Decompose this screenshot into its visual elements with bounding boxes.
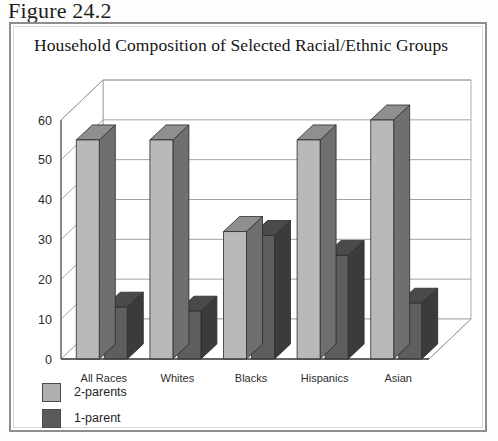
- bar-asian-2-parents: [371, 105, 410, 359]
- y-axis-tick-label: 20: [38, 273, 52, 287]
- y-axis-tick-label: 60: [38, 114, 52, 128]
- figure-number-label: Figure 24.2: [8, 0, 112, 24]
- bar-hispanics-2-parents: [297, 125, 336, 359]
- figure-container: Figure 24.2 Household Composition of Sel…: [0, 0, 498, 441]
- y-axis-tick-label: 10: [38, 313, 52, 327]
- y-axis-tick-label: 50: [38, 153, 52, 167]
- x-axis-category-label: Hispanics: [301, 372, 349, 384]
- chart-frame: Household Composition of Selected Racial…: [9, 22, 487, 432]
- legend-swatch-2-parents: [42, 383, 61, 402]
- bar-whites-2-parents: [150, 125, 189, 359]
- legend-item-1-parent: 1-parent: [42, 405, 262, 431]
- bar-blacks-2-parents: [224, 217, 263, 359]
- legend-swatch-1-parent: [42, 409, 61, 428]
- legend-label-1-parent: 1-parent: [74, 411, 121, 425]
- y-axis-tick-label: 0: [45, 353, 52, 367]
- chart-title: Household Composition of Selected Racial…: [34, 35, 448, 56]
- bar-chart-plot: 0102030405060All RacesWhitesBlacksHispan…: [14, 61, 488, 391]
- legend-item-2-parents: 2-parents: [42, 379, 262, 405]
- legend-label-2-parents: 2-parents: [74, 385, 127, 399]
- chart-legend: 2-parents 1-parent: [42, 379, 262, 431]
- bar-all-races-2-parents: [76, 125, 115, 359]
- chart-frame-inner-border: Household Composition of Selected Racial…: [13, 26, 483, 428]
- y-axis-tick-label: 40: [38, 193, 52, 207]
- x-axis-category-label: Asian: [384, 372, 412, 384]
- y-axis-tick-label: 30: [38, 233, 52, 247]
